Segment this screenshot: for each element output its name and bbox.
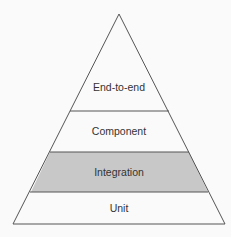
layer-label-integration: Integration xyxy=(94,166,144,178)
pyramid-diagram: End-to-end Component Integration Unit xyxy=(0,0,231,237)
layer-label-component: Component xyxy=(92,125,146,137)
layer-label-unit: Unit xyxy=(110,202,129,214)
layer-label-end-to-end: End-to-end xyxy=(93,81,145,93)
pyramid-svg: End-to-end Component Integration Unit xyxy=(0,0,231,237)
